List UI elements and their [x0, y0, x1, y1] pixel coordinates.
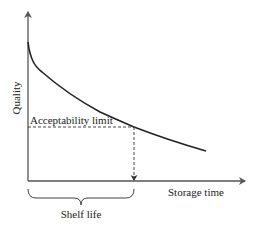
shelf-life-label: Shelf life [61, 208, 102, 220]
shelf-life-brace [28, 189, 134, 205]
y-axis-label: Quality [10, 81, 22, 114]
x-axis-label: Storage time [168, 186, 224, 198]
shelf-life-diagram: Quality Acceptability limit Storage time… [0, 0, 258, 229]
quality-curve [28, 42, 206, 151]
acceptability-limit-label: Acceptability limit [30, 114, 113, 126]
